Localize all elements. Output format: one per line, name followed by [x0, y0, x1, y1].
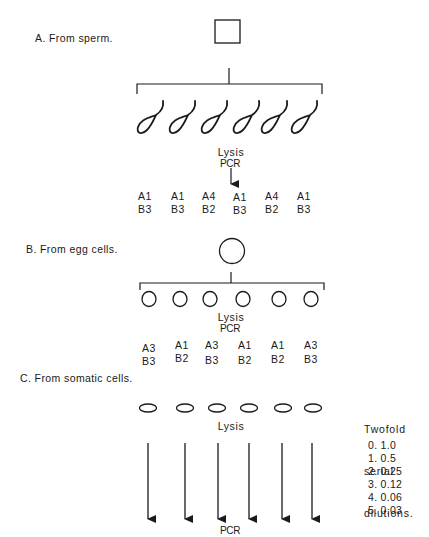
- genotype-a: A3: [299, 339, 323, 352]
- somatic-cell-icon: [241, 404, 258, 412]
- sperm-icon: [262, 101, 288, 133]
- somatic-cell-icon: [140, 404, 157, 412]
- dilution-index: 3.: [368, 478, 377, 490]
- dilution-index: 0.: [368, 439, 377, 451]
- dilution-index: 1.: [368, 452, 377, 464]
- genotype-b: B2: [260, 203, 284, 216]
- genotype-a: A3: [137, 342, 161, 355]
- genotype-column: A1 B3: [133, 190, 157, 216]
- genotype-column: A4 B2: [260, 190, 284, 216]
- egg-cell-icon: [173, 292, 187, 307]
- genotype-a: A1: [292, 190, 316, 203]
- egg-cell-icons: [142, 292, 318, 307]
- dilution-item: 5. 0.03: [368, 504, 402, 517]
- dilution-index: 2.: [368, 465, 377, 477]
- dilution-index: 5.: [368, 504, 377, 516]
- genotype-a: A1: [228, 191, 252, 204]
- egg-cell-icon: [236, 292, 250, 307]
- genotype-b: B3: [292, 203, 316, 216]
- somatic-cell-icons: [140, 404, 322, 412]
- genotype-b: B3: [166, 203, 190, 216]
- egg-cell-icon: [142, 292, 156, 307]
- genotype-a: A1: [170, 339, 194, 352]
- genotype-a: A1: [133, 190, 157, 203]
- dilution-item: 4. 0.06: [368, 491, 402, 504]
- dilution-list: 0. 1.0 1. 0.5 2. 0.25 3. 0.12 4. 0.06 5.…: [368, 439, 402, 517]
- genotype-b: B3: [133, 203, 157, 216]
- dilution-item: 3. 0.12: [368, 478, 402, 491]
- female-parent-circle-icon: [220, 239, 245, 264]
- somatic-cell-icon: [177, 404, 194, 412]
- bracket: [140, 283, 324, 290]
- male-parent-square-icon: [215, 20, 240, 43]
- genotype-column: A3 B3: [137, 342, 161, 368]
- lysis-label: Lysis: [201, 420, 261, 432]
- genotype-column: A1 B3: [292, 190, 316, 216]
- somatic-cell-icon: [209, 404, 226, 412]
- genotype-column: A3 B3: [299, 339, 323, 366]
- panel-c-title: C. From somatic cells.: [20, 372, 133, 384]
- genotype-b: B3: [299, 353, 323, 366]
- lysis-label: Lysis: [201, 311, 261, 323]
- sperm-icon: [292, 101, 318, 133]
- genotype-b: B2: [197, 203, 221, 216]
- genotype-column: A1 B3: [166, 190, 190, 216]
- egg-cell-icon: [203, 292, 217, 307]
- genotype-a: A4: [260, 190, 284, 203]
- genotype-a: A1: [166, 190, 190, 203]
- dilution-value: 0.06: [381, 491, 403, 503]
- pcr-label: PCR: [200, 323, 260, 334]
- genotype-column: A1 B2: [233, 339, 257, 367]
- sperm-icon: [170, 101, 196, 133]
- genotype-column: A1 B3: [228, 191, 252, 217]
- dilutions-heading-line: Twofold: [364, 422, 413, 436]
- sperm-icon: [234, 101, 260, 133]
- genotype-b: B2: [233, 354, 257, 367]
- genotype-b: B2: [266, 353, 290, 366]
- pcr-label: PCR: [200, 525, 260, 536]
- sperm-icon: [138, 101, 164, 133]
- genotype-a: A1: [266, 339, 290, 352]
- panel-b-graphics: [140, 239, 324, 307]
- dilution-index: 4.: [368, 491, 377, 503]
- panel-b-title: B. From egg cells.: [26, 243, 118, 255]
- genotype-b: B3: [228, 204, 252, 217]
- somatic-cell-icon: [275, 404, 292, 412]
- dilution-arrows: [148, 443, 312, 519]
- genotype-column: A1 B2: [170, 339, 194, 365]
- genotype-b: B3: [200, 354, 224, 367]
- dilution-value: 0.12: [381, 478, 403, 490]
- genotype-column: A1 B2: [266, 339, 290, 366]
- somatic-cell-icon: [305, 404, 322, 412]
- sperm-icon: [202, 101, 228, 133]
- egg-cell-icon: [272, 292, 286, 307]
- genotype-b: B2: [170, 352, 194, 365]
- genotype-column: A3 B3: [200, 339, 224, 367]
- genotype-column: A4 B2: [197, 190, 221, 216]
- panel-a-title: A. From sperm.: [35, 32, 113, 44]
- pcr-label: PCR: [200, 158, 260, 169]
- dilution-item: 0. 1.0: [368, 439, 402, 452]
- dilution-item: 1. 0.5: [368, 452, 402, 465]
- genotype-a: A1: [233, 339, 257, 352]
- dilution-value: 0.25: [381, 465, 403, 477]
- sperm-icons: [138, 101, 318, 133]
- lysis-label: Lysis: [201, 146, 261, 158]
- dilution-value: 0.5: [381, 452, 397, 464]
- genotype-a: A3: [200, 339, 224, 352]
- bracket: [137, 84, 322, 94]
- egg-cell-icon: [304, 292, 318, 307]
- genotype-a: A4: [197, 190, 221, 203]
- dilution-item: 2. 0.25: [368, 465, 402, 478]
- genotype-b: B3: [137, 355, 161, 368]
- dilution-value: 0.03: [381, 504, 403, 516]
- dilution-value: 1.0: [381, 439, 397, 451]
